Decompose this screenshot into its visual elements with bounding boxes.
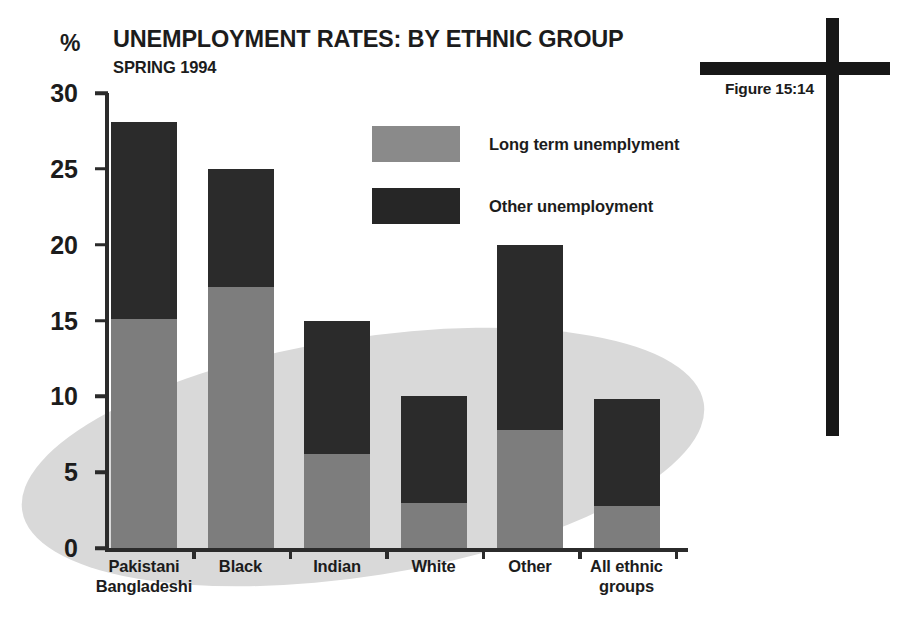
bar-stack[interactable] (111, 122, 177, 548)
bar-segment-other-unemployment[interactable] (111, 122, 177, 319)
bar-stack[interactable] (208, 169, 274, 548)
bar-stack[interactable] (401, 396, 467, 548)
bar-segment-other-unemployment[interactable] (401, 396, 467, 502)
x-axis-category-label-line: Other (475, 556, 585, 576)
legend-label-long-term: Long term unemplyment (489, 135, 679, 154)
x-axis-category-label-line: All ethnic (572, 556, 682, 576)
x-axis-category-label-line: Pakistani (89, 556, 199, 576)
bar-segment-long-term-unemployment[interactable] (208, 287, 274, 548)
x-axis-category-label-line: Black (186, 556, 296, 576)
y-axis-tick-label: 5 (26, 460, 78, 485)
x-axis-category-label: White (379, 556, 489, 576)
bar-segment-long-term-unemployment[interactable] (304, 454, 370, 548)
bar-segment-other-unemployment[interactable] (208, 169, 274, 287)
bar-segment-other-unemployment[interactable] (304, 321, 370, 454)
title-block: UNEMPLOYMENT RATES: BY ETHNIC GROUP SPRI… (113, 28, 623, 75)
y-axis-tick-mark (95, 546, 108, 550)
legend-label-other: Other unemployment (489, 197, 653, 216)
legend-item-long-term: Long term unemplyment (372, 126, 679, 162)
x-axis-category-label: Indian (282, 556, 392, 576)
chart-legend: Long term unemplyment Other unemployment (372, 126, 679, 250)
plot-area: 051015202530 PakistaniBangladeshiBlackIn… (0, 0, 700, 627)
y-axis-tick-mark (95, 167, 108, 171)
chart-title: UNEMPLOYMENT RATES: BY ETHNIC GROUP (113, 28, 623, 52)
x-axis-category-label: PakistaniBangladeshi (89, 556, 199, 596)
bar-segment-long-term-unemployment[interactable] (497, 430, 563, 548)
x-axis-category-label-line: Indian (282, 556, 392, 576)
y-axis-tick-mark (95, 319, 108, 323)
legend-swatch-icon-other (372, 188, 460, 224)
y-axis-tick-mark (95, 395, 108, 399)
bar-stack[interactable] (594, 399, 660, 548)
cross-icon-vertical-bar (826, 18, 839, 436)
y-axis-tick-mark (95, 470, 108, 474)
bar-segment-other-unemployment[interactable] (594, 399, 660, 505)
figure-marker: Figure 15:14 (700, 18, 890, 436)
y-axis-tick-label: 15 (26, 308, 78, 333)
bar-segment-long-term-unemployment[interactable] (401, 503, 467, 549)
x-axis-category-label-line: White (379, 556, 489, 576)
y-axis-unit-label: % (60, 30, 80, 57)
chart-subtitle: SPRING 1994 (113, 59, 623, 76)
bar-segment-long-term-unemployment[interactable] (594, 506, 660, 548)
y-axis-tick-label: 25 (26, 156, 78, 181)
bar-stack[interactable] (304, 321, 370, 548)
x-axis-category-label-line: Bangladeshi (89, 576, 199, 596)
y-axis-tick-label: 30 (26, 81, 78, 106)
bar-segment-other-unemployment[interactable] (497, 245, 563, 430)
y-axis-tick-label: 20 (26, 232, 78, 257)
y-axis-tick-mark (95, 243, 108, 247)
legend-item-other: Other unemployment (372, 188, 679, 224)
x-axis-category-label: Black (186, 556, 296, 576)
figure-number-label: Figure 15:14 (725, 80, 814, 98)
bar-segment-long-term-unemployment[interactable] (111, 319, 177, 548)
cross-icon-horizontal-bar (700, 62, 890, 75)
y-axis-tick-label: 0 (26, 536, 78, 561)
x-axis-category-label: All ethnicgroups (572, 556, 682, 596)
bar-stack[interactable] (497, 245, 563, 548)
y-axis-tick-label: 10 (26, 384, 78, 409)
x-axis-category-label-line: groups (572, 576, 682, 596)
y-axis-tick-mark (95, 91, 108, 95)
x-axis-category-label: Other (475, 556, 585, 576)
legend-swatch-icon-long-term (372, 126, 460, 162)
chart-container: UNEMPLOYMENT RATES: BY ETHNIC GROUP SPRI… (0, 0, 700, 627)
